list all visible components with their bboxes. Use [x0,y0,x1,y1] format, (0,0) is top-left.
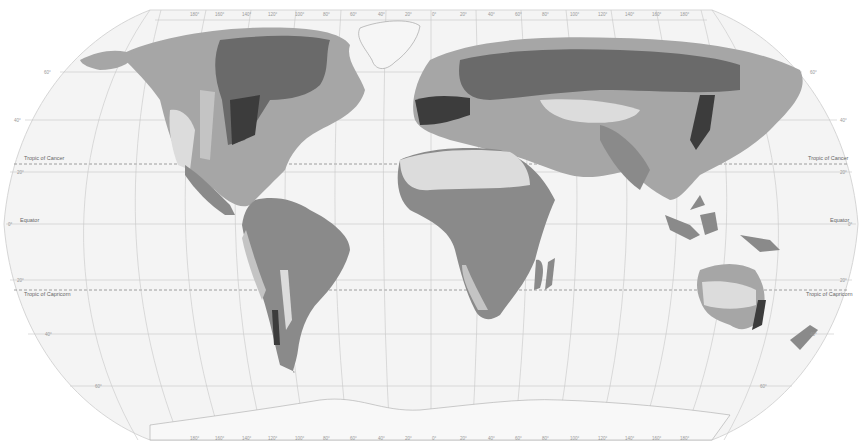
label-tropic-of-capricorn-right: Tropic of Capricorn [806,291,853,297]
svg-text:120°: 120° [598,436,608,441]
svg-text:60°: 60° [95,384,102,389]
svg-text:80°: 80° [323,12,330,17]
svg-text:60°: 60° [350,436,357,441]
world-map: Tropic of Cancer Tropic of Cancer Equato… [0,0,862,447]
svg-text:40°: 40° [378,12,385,17]
label-equator-right: Equator [830,217,849,223]
svg-text:60°: 60° [350,12,357,17]
svg-text:100°: 100° [570,12,580,17]
svg-text:20°: 20° [460,12,467,17]
svg-text:100°: 100° [295,436,305,441]
svg-text:40°: 40° [378,436,385,441]
svg-text:20°: 20° [460,436,467,441]
svg-text:60°: 60° [515,12,522,17]
label-tropic-of-cancer-left: Tropic of Cancer [24,155,65,161]
svg-text:40°: 40° [488,12,495,17]
svg-text:0°: 0° [848,222,853,227]
svg-text:0°: 0° [432,12,437,17]
svg-text:0°: 0° [432,436,437,441]
svg-text:80°: 80° [542,12,549,17]
svg-text:20°: 20° [17,278,24,283]
svg-text:60°: 60° [44,70,51,75]
svg-text:180°: 180° [680,436,690,441]
label-equator-left: Equator [20,217,39,223]
svg-text:20°: 20° [840,278,847,283]
svg-text:140°: 140° [242,12,252,17]
svg-text:40°: 40° [14,118,21,123]
svg-text:180°: 180° [680,12,690,17]
svg-text:100°: 100° [295,12,305,17]
svg-text:160°: 160° [215,436,225,441]
svg-text:160°: 160° [652,12,662,17]
svg-text:100°: 100° [570,436,580,441]
svg-text:140°: 140° [625,436,635,441]
svg-text:20°: 20° [17,170,24,175]
svg-text:20°: 20° [840,170,847,175]
svg-text:40°: 40° [488,436,495,441]
svg-text:180°: 180° [190,12,200,17]
svg-text:180°: 180° [190,436,200,441]
label-tropic-of-cancer-right: Tropic of Cancer [808,155,849,161]
svg-text:160°: 160° [652,436,662,441]
svg-text:140°: 140° [625,12,635,17]
svg-text:20°: 20° [405,436,412,441]
svg-text:40°: 40° [840,118,847,123]
svg-text:40°: 40° [810,332,817,337]
svg-text:160°: 160° [215,12,225,17]
svg-text:60°: 60° [515,436,522,441]
svg-text:140°: 140° [242,436,252,441]
svg-text:0°: 0° [8,222,13,227]
svg-text:80°: 80° [542,436,549,441]
svg-text:60°: 60° [810,70,817,75]
svg-text:80°: 80° [323,436,330,441]
svg-text:120°: 120° [268,436,278,441]
label-tropic-of-capricorn-left: Tropic of Capricorn [24,291,71,297]
svg-text:120°: 120° [598,12,608,17]
svg-text:20°: 20° [405,12,412,17]
svg-text:120°: 120° [268,12,278,17]
svg-text:40°: 40° [45,332,52,337]
svg-text:60°: 60° [760,384,767,389]
